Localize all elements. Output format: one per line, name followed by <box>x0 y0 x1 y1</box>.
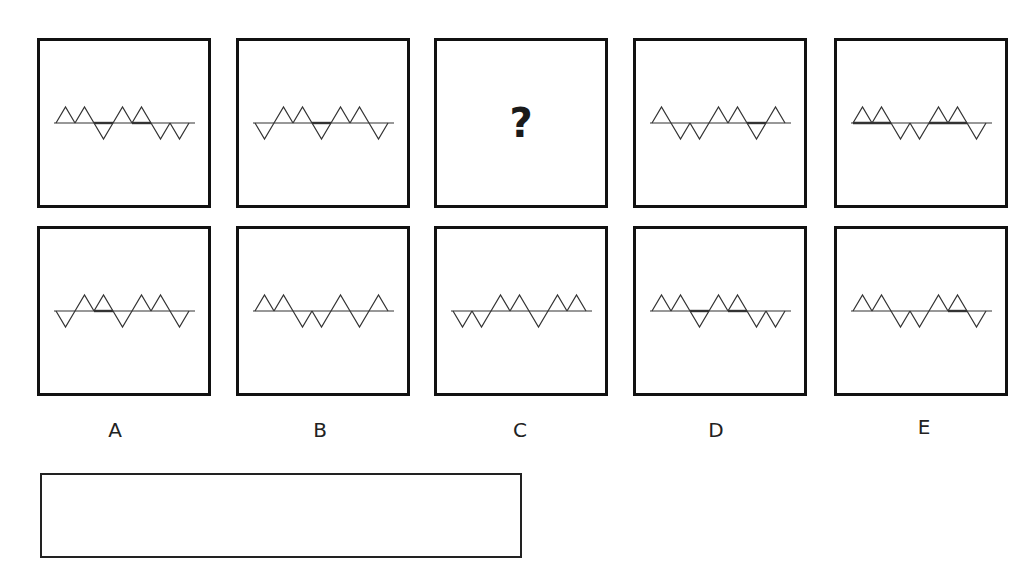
triangle-zigzag-figure <box>837 41 1005 205</box>
option-label-d: D <box>630 418 802 442</box>
question-panel-missing: ? <box>434 38 608 208</box>
option-label-e: E <box>838 415 1010 439</box>
option-a[interactable] <box>37 226 211 396</box>
triangle-zigzag-figure <box>437 229 605 393</box>
question-mark: ? <box>437 41 605 205</box>
option-d[interactable] <box>633 226 807 396</box>
option-label-c: C <box>434 418 606 442</box>
triangle-zigzag-figure <box>239 41 407 205</box>
option-b[interactable] <box>236 226 410 396</box>
question-panel-4 <box>633 38 807 208</box>
option-c[interactable] <box>434 226 608 396</box>
question-panel-1 <box>37 38 211 208</box>
question-panel-2 <box>236 38 410 208</box>
triangle-zigzag-figure <box>40 229 208 393</box>
triangle-zigzag-figure <box>40 41 208 205</box>
answer-input-box[interactable] <box>40 473 522 558</box>
triangle-zigzag-figure <box>636 229 804 393</box>
option-label-b: B <box>234 418 406 442</box>
option-e[interactable] <box>834 226 1008 396</box>
triangle-zigzag-figure <box>239 229 407 393</box>
question-panel-5 <box>834 38 1008 208</box>
triangle-zigzag-figure <box>837 229 1005 393</box>
option-label-a: A <box>29 418 201 442</box>
triangle-zigzag-figure <box>636 41 804 205</box>
